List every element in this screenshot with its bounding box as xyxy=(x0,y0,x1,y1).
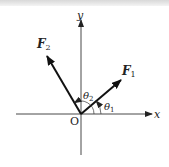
theta1-arc xyxy=(96,101,101,114)
theta1-label: θ1 xyxy=(104,101,115,114)
vector-f2 xyxy=(47,56,81,114)
force-diagram: y x O F2 F1 θ2 θ1 xyxy=(0,0,169,167)
theta2-label: θ2 xyxy=(83,90,94,103)
f2-label: F2 xyxy=(36,37,51,52)
x-axis-label: x xyxy=(154,108,161,121)
origin-label: O xyxy=(70,115,79,128)
f1-label: F1 xyxy=(121,64,136,79)
y-axis-label: y xyxy=(76,9,84,22)
